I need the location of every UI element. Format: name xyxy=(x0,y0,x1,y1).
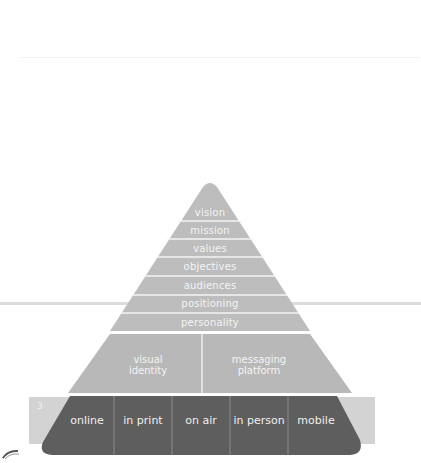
tier-mission: mission xyxy=(190,225,230,236)
tier-objectives: objectives xyxy=(184,261,237,272)
swoosh-icon xyxy=(2,448,22,460)
channel-online: online xyxy=(70,414,104,427)
middle-band xyxy=(68,334,352,393)
channel-on-air: on air xyxy=(185,414,217,427)
pyramid-diagram: 3 vision mission values objectives audie… xyxy=(0,0,421,463)
messaging-platform-line1: messaging xyxy=(232,354,286,365)
tier-values: values xyxy=(193,243,227,254)
visual-identity-line2: identity xyxy=(129,365,167,376)
tier-audiences: audiences xyxy=(184,280,237,291)
channel-mobile: mobile xyxy=(297,414,334,427)
messaging-platform-line2: platform xyxy=(232,365,286,376)
middle-visual-identity: visual identity xyxy=(129,354,167,376)
channel-in-print: in print xyxy=(123,414,162,427)
tier-vision: vision xyxy=(195,207,225,218)
channel-in-person: in person xyxy=(233,414,284,427)
visual-identity-line1: visual xyxy=(129,354,167,365)
middle-messaging-platform: messaging platform xyxy=(232,354,286,376)
tier-personality: personality xyxy=(181,317,239,328)
tier-positioning: positioning xyxy=(181,298,238,309)
